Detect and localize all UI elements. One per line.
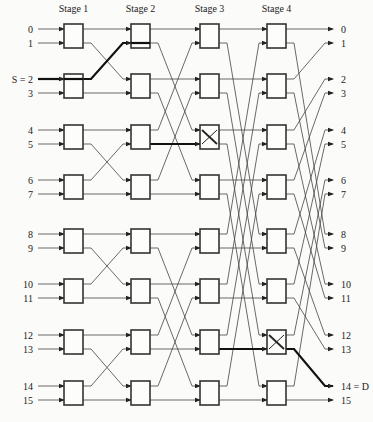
output-line xyxy=(286,79,333,130)
switch-box xyxy=(267,229,286,253)
switch-box xyxy=(131,74,150,98)
stage-label: Stage 1 xyxy=(59,3,89,14)
output-label: 12 xyxy=(341,330,351,341)
output-line xyxy=(286,43,333,79)
switch-box xyxy=(64,279,83,303)
output-label: 13 xyxy=(341,344,351,355)
input-label: 8 xyxy=(28,229,33,240)
output-line xyxy=(286,180,333,335)
input-label: 7 xyxy=(28,189,33,200)
output-label: 1 xyxy=(341,38,346,49)
output-label: 8 xyxy=(341,229,346,240)
switch-box xyxy=(200,330,219,354)
output-line xyxy=(286,130,333,234)
input-label: 13 xyxy=(23,344,33,355)
output-line xyxy=(286,93,333,180)
input-label: 1 xyxy=(28,38,33,49)
output-line xyxy=(286,93,333,248)
switch-box xyxy=(267,125,286,149)
switch-box xyxy=(200,74,219,98)
stage-label: Stage 3 xyxy=(195,3,225,14)
switch-box xyxy=(267,175,286,199)
output-label: 6 xyxy=(341,175,346,186)
switch-box xyxy=(64,175,83,199)
output-line xyxy=(286,349,333,386)
switch-box xyxy=(267,24,286,48)
input-label: S = 2 xyxy=(12,74,33,85)
switch-box xyxy=(64,381,83,405)
switch-box xyxy=(64,229,83,253)
stage-label: Stage 4 xyxy=(262,3,292,14)
output-label: 2 xyxy=(341,74,346,85)
switch-box xyxy=(64,74,83,98)
input-label: 0 xyxy=(28,24,33,35)
output-label: 5 xyxy=(341,139,346,150)
output-label: 9 xyxy=(341,243,346,254)
switch-box xyxy=(64,125,83,149)
switch-box xyxy=(200,175,219,199)
switch-box xyxy=(64,330,83,354)
switch-box xyxy=(131,175,150,199)
output-labels: 01234567891011121314 = D15 xyxy=(341,24,369,406)
link-wire xyxy=(83,349,131,386)
switch-box xyxy=(131,330,150,354)
output-label: 4 xyxy=(341,125,346,136)
input-label: 5 xyxy=(28,139,33,150)
switch-box xyxy=(131,229,150,253)
switch-box xyxy=(267,381,286,405)
link-wire xyxy=(83,43,131,79)
input-label: 11 xyxy=(23,293,33,304)
link-wire xyxy=(150,298,200,386)
switch-box xyxy=(267,74,286,98)
switch-box xyxy=(200,24,219,48)
link-wire xyxy=(150,93,200,180)
input-label: 9 xyxy=(28,243,33,254)
output-line xyxy=(286,43,333,234)
stage-label: Stage 2 xyxy=(126,3,156,14)
output-label: 11 xyxy=(341,293,351,304)
output-label: 0 xyxy=(341,24,346,35)
input-label: 15 xyxy=(23,395,33,406)
output-line xyxy=(286,298,333,349)
link-wire xyxy=(219,194,267,386)
link-wire xyxy=(83,248,131,284)
input-label: 4 xyxy=(28,125,33,136)
switch-box xyxy=(200,381,219,405)
switch-box xyxy=(131,381,150,405)
switch-box xyxy=(267,279,286,303)
link-wire xyxy=(219,144,267,335)
output-label: 10 xyxy=(341,279,351,290)
output-line xyxy=(286,194,333,386)
link-wire xyxy=(150,248,200,335)
switch-box xyxy=(200,229,219,253)
switch-box xyxy=(200,279,219,303)
link-wire xyxy=(219,43,267,234)
link-wire xyxy=(219,93,267,284)
destination-label: 14 = D xyxy=(341,381,369,392)
output-label: 3 xyxy=(341,88,346,99)
switch-box xyxy=(131,24,150,48)
input-label: 12 xyxy=(23,330,33,341)
input-label: 14 xyxy=(23,381,33,392)
link-wire xyxy=(83,144,131,180)
input-label: 3 xyxy=(28,88,33,99)
switch-box xyxy=(131,125,150,149)
output-label: 15 xyxy=(341,395,351,406)
stage-labels: Stage 1Stage 2Stage 3Stage 4 xyxy=(59,3,292,14)
output-label: 7 xyxy=(341,189,346,200)
input-labels: 01S = 23456789101112131415 xyxy=(12,24,33,406)
link-wire xyxy=(150,43,200,130)
input-label: 6 xyxy=(28,175,33,186)
output-line xyxy=(286,144,333,284)
switch-box xyxy=(64,24,83,48)
input-label: 10 xyxy=(23,279,33,290)
output-line xyxy=(286,194,333,298)
network-diagram: Stage 1Stage 2Stage 3Stage 4 01S = 23456… xyxy=(0,0,373,422)
switch-box xyxy=(131,279,150,303)
